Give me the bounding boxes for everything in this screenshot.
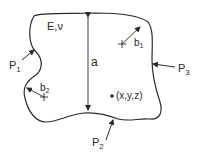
distance-b2-label: b2 xyxy=(40,82,50,94)
material-label: E,ν xyxy=(47,20,63,32)
b2-point-marker xyxy=(40,93,48,101)
load-p1-arrow xyxy=(22,50,34,60)
field-point-dot xyxy=(110,94,114,98)
load-p3-arrow xyxy=(153,64,175,67)
load-p2-arrow xyxy=(106,120,113,140)
load-p1-label: P1 xyxy=(9,59,21,74)
dimension-a-label: a xyxy=(91,55,98,69)
field-point-label: (x,y,z) xyxy=(116,90,142,101)
load-p2-label: P2 xyxy=(92,136,104,151)
load-p3-label: P3 xyxy=(178,62,190,77)
elastic-body-diagram: a E,ν P1 b1 P3 b2 (x,y,z) P2 xyxy=(0,0,199,158)
distance-b1-label: b1 xyxy=(134,37,144,49)
